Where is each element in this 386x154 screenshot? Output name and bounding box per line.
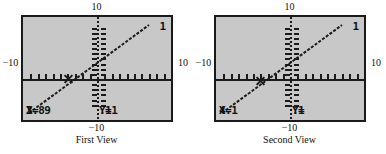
screen-inner-first-view: 1 X=⁻3.89 Y=.11	[23, 17, 171, 120]
panel-first-view: 10 −10 10 −10 1 X=⁻3.89 Y=.11	[0, 0, 193, 154]
axis-label-top-right-panel: 10	[193, 1, 386, 12]
trace-readout-first-view: X=⁻3.89 Y=.11	[23, 104, 171, 118]
screen-inner-second-view: 1 X=⁻4.1 Y=⁻.1	[216, 17, 364, 120]
caption-first-view: First View	[0, 134, 193, 145]
calculator-screen-second-view: 1 X=⁻4.1 Y=⁻.1	[214, 15, 366, 122]
axis-label-right-right-panel: 10	[366, 57, 386, 68]
axis-label-left-left-panel: −10	[0, 57, 21, 68]
graph-number-first-view: 1	[159, 20, 166, 33]
graph-number-second-view: 1	[352, 20, 359, 33]
trace-readout-second-view: X=⁻4.1 Y=⁻.1	[216, 104, 364, 118]
axis-label-bottom-right-panel: −10	[193, 122, 386, 133]
axis-label-bottom-left-panel: −10	[0, 122, 193, 133]
axis-label-left-right-panel: −10	[193, 57, 214, 68]
calculator-screen-first-view: 1 X=⁻3.89 Y=.11	[21, 15, 173, 122]
trace-cursor-first-view	[63, 73, 74, 84]
axis-label-right-left-panel: 10	[173, 57, 193, 68]
caption-second-view: Second View	[193, 134, 386, 145]
trace-cursor-second-view	[255, 75, 266, 86]
panel-second-view: 10 −10 10 −10 1 X=⁻4.1 Y=⁻.1	[193, 0, 386, 154]
figure-two-views: 10 −10 10 −10 1 X=⁻3.89 Y=.11	[0, 0, 386, 154]
axis-label-top-left-panel: 10	[0, 1, 193, 12]
